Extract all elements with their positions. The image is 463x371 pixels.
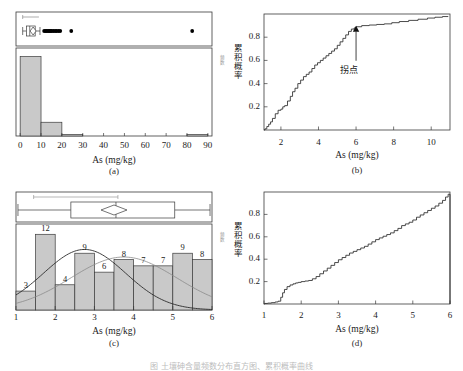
- panel-d-frame: [264, 192, 450, 304]
- histogram-bar: [192, 260, 212, 310]
- histogram-bar: [62, 134, 83, 136]
- tick-label: 6: [346, 137, 366, 147]
- panel-a-outlier-dots: [42, 29, 194, 33]
- tick-label: 50: [114, 140, 134, 150]
- bar-value-label: 4: [57, 274, 73, 284]
- bar-value-label: 8: [116, 249, 132, 259]
- panel-a-yaxis-title: 频数: [218, 55, 224, 113]
- panel-b-inflection-annotation: 拐点: [340, 63, 358, 76]
- panel-a-xaxis-title: As (mg/kg): [14, 155, 214, 165]
- tick-label: 4: [308, 137, 328, 147]
- panel-d-label: (d): [337, 338, 377, 348]
- tick-label: 0.8: [238, 31, 260, 41]
- tick-label: 4: [124, 312, 144, 322]
- tick-label: 6: [440, 310, 460, 320]
- tick-label: 1: [254, 310, 274, 320]
- panel-a-plot: [14, 10, 214, 138]
- tick-label: 2: [45, 312, 65, 322]
- tick-label: 0: [10, 140, 30, 150]
- tick-label: 0.8: [238, 208, 260, 218]
- histogram-bar: [41, 122, 62, 136]
- bar-value-label: 3: [18, 280, 34, 290]
- panel-c-label: (c): [94, 338, 134, 348]
- bar-value-label: 6: [96, 261, 112, 271]
- tick-label: 8: [384, 137, 404, 147]
- histogram-bar: [94, 272, 114, 310]
- panel-a-label: (a): [94, 166, 134, 176]
- tick-label: 6: [202, 312, 222, 322]
- bar-value-label: 9: [175, 242, 191, 252]
- panel-a-boxplot: [23, 15, 40, 36]
- panel-d-xaxis-title: As (mg/kg): [262, 324, 452, 334]
- tick-label: 40: [94, 140, 114, 150]
- tick-label: 10: [31, 140, 51, 150]
- tick-label: 30: [73, 140, 93, 150]
- tick-label: 90: [198, 140, 218, 150]
- tick-label: 2: [271, 137, 291, 147]
- panel-d-plot: [262, 190, 452, 308]
- figure-caption: 图 土壤砷含量频数分布直方图、累积概率曲线: [150, 360, 313, 371]
- tick-label: 5: [163, 312, 183, 322]
- panel-b-xaxis-title: As (mg/kg): [262, 150, 452, 160]
- panel-a-bars: [20, 57, 208, 136]
- tick-label: 0.4: [238, 253, 260, 263]
- bar-value-label: 7: [135, 255, 151, 265]
- tick-label: 60: [135, 140, 155, 150]
- bar-value-label: 12: [37, 223, 53, 233]
- tick-label: 80: [177, 140, 197, 150]
- panel-b-label: (b): [337, 165, 377, 175]
- histogram-bar: [187, 134, 208, 136]
- panel-a-boxplot-frame: [16, 12, 212, 46]
- tick-label: 3: [328, 310, 348, 320]
- bar-value-label: 7: [155, 255, 171, 265]
- tick-label: 20: [52, 140, 72, 150]
- panel-c-boxplot: [18, 195, 210, 218]
- panel-d: [262, 190, 452, 308]
- tick-label: 0.6: [238, 231, 260, 241]
- histogram-bar: [20, 57, 41, 136]
- histogram-bar: [36, 234, 56, 310]
- histogram-bar: [55, 285, 75, 310]
- histogram-bar: [75, 253, 95, 310]
- tick-label: 1: [6, 312, 26, 322]
- tick-label: 0.4: [238, 78, 260, 88]
- tick-label: 4: [366, 310, 386, 320]
- tick-label: 0.2: [238, 276, 260, 286]
- bar-value-label: 9: [77, 242, 93, 252]
- tick-label: 0.6: [238, 54, 260, 64]
- panel-d-cdf-curve: [264, 194, 450, 304]
- bar-value-label: 8: [194, 249, 210, 259]
- tick-label: 0.2: [238, 101, 260, 111]
- tick-label: 70: [156, 140, 176, 150]
- tick-label: 3: [84, 312, 104, 322]
- panel-b-inflection-marker: [353, 26, 359, 61]
- panel-c-xaxis-title: As (mg/kg): [14, 326, 214, 336]
- panel-c-yaxis-title: 频数: [218, 232, 224, 284]
- panel-a: [14, 10, 214, 138]
- tick-label: 10: [421, 137, 441, 147]
- histogram-bar: [114, 260, 134, 310]
- tick-label: 2: [291, 310, 311, 320]
- tick-label: 5: [403, 310, 423, 320]
